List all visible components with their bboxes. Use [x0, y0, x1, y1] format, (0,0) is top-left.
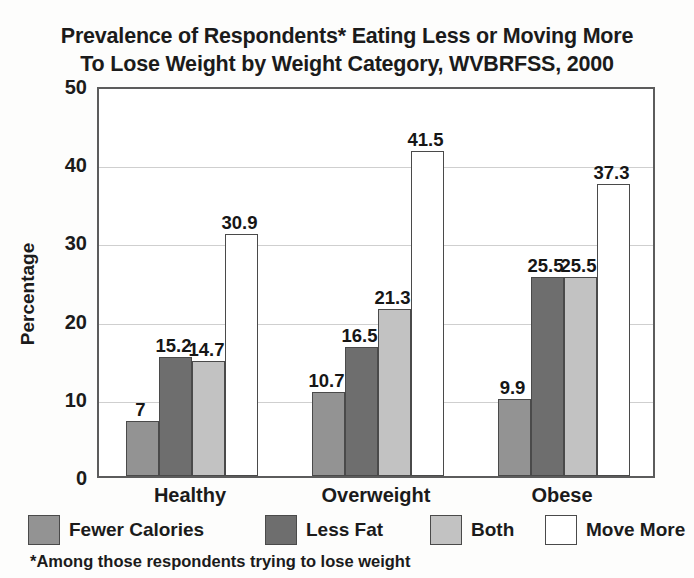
plot-area — [97, 87, 655, 478]
gridline — [99, 245, 653, 246]
legend-swatch — [265, 515, 297, 545]
bar[interactable] — [531, 277, 564, 476]
bar-value-label: 7 — [118, 400, 163, 420]
chart-page: Prevalence of Respondents* Eating Less o… — [0, 0, 694, 578]
bar-value-label: 30.9 — [217, 213, 262, 233]
y-tick-label: 20 — [35, 312, 87, 332]
category-label: Healthy — [84, 484, 296, 507]
chart-title: Prevalence of Respondents* Eating Less o… — [0, 22, 694, 78]
legend-item[interactable]: Less Fat — [265, 513, 383, 547]
bar-value-label: 25.5 — [556, 256, 601, 276]
bar[interactable] — [411, 151, 444, 476]
gridline — [99, 167, 653, 168]
y-tick-label: 0 — [35, 468, 87, 488]
y-tick-label: 10 — [35, 390, 87, 410]
y-tick-label: 40 — [35, 155, 87, 175]
bar-value-label: 41.5 — [403, 130, 448, 150]
bar[interactable] — [345, 347, 378, 476]
bar[interactable] — [312, 392, 345, 476]
legend-label: Move More — [586, 519, 685, 541]
bar[interactable] — [378, 309, 411, 476]
legend-swatch — [430, 515, 462, 545]
bar[interactable] — [192, 361, 225, 476]
legend-item[interactable]: Fewer Calories — [28, 513, 204, 547]
bar-value-label: 21.3 — [370, 288, 415, 308]
footnote: *Among those respondents trying to lose … — [30, 552, 410, 571]
bar[interactable] — [225, 234, 258, 476]
chart-legend: Fewer CaloriesLess FatBothMove More — [0, 513, 694, 549]
legend-swatch — [28, 515, 60, 545]
bar-value-label: 16.5 — [337, 326, 382, 346]
legend-swatch — [545, 515, 577, 545]
bar[interactable] — [159, 357, 192, 476]
bar-value-label: 37.3 — [589, 163, 634, 183]
chart-title-line-1: Prevalence of Respondents* Eating Less o… — [61, 24, 633, 48]
bar[interactable] — [498, 399, 531, 476]
bar[interactable] — [564, 277, 597, 476]
legend-item[interactable]: Move More — [545, 513, 685, 547]
y-axis-label: Percentage — [17, 204, 39, 384]
bar-value-label: 10.7 — [304, 371, 349, 391]
legend-label: Fewer Calories — [69, 519, 204, 541]
legend-item[interactable]: Both — [430, 513, 514, 547]
bar[interactable] — [597, 184, 630, 476]
bar-value-label: 14.7 — [184, 340, 229, 360]
y-tick-label: 30 — [35, 233, 87, 253]
legend-label: Both — [471, 519, 514, 541]
category-label: Overweight — [270, 484, 482, 507]
category-label: Obese — [456, 484, 668, 507]
bar[interactable] — [126, 421, 159, 476]
y-tick-label: 50 — [35, 77, 87, 97]
legend-label: Less Fat — [306, 519, 383, 541]
chart-title-line-2: To Lose Weight by Weight Category, WVBRF… — [0, 50, 694, 78]
bar-value-label: 9.9 — [490, 378, 535, 398]
